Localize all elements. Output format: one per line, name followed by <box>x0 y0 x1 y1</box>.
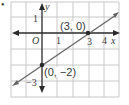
y-axis-label: y <box>45 2 49 12</box>
x-tick-3: 3 <box>87 37 92 47</box>
coordinate-graph <box>0 0 129 105</box>
y-tick-neg3: −3 <box>26 78 37 88</box>
point-label-3-0: (3, 0) <box>60 21 86 31</box>
y-axis-down-arrow <box>39 86 45 93</box>
x-axis-label: x <box>111 36 115 46</box>
origin-label: O <box>32 36 39 46</box>
point-label-0-neg2: (0, −2) <box>44 67 76 77</box>
y-tick-1: 1 <box>33 14 38 24</box>
point-3-0 <box>86 31 91 36</box>
x-tick-4: 4 <box>102 36 107 46</box>
x-axis-left-arrow <box>12 30 19 36</box>
x-tick-1: 1 <box>56 36 61 46</box>
